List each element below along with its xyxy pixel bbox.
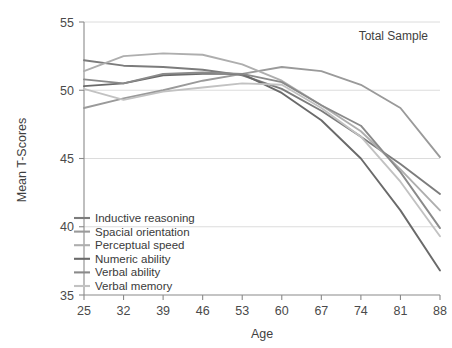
y-tick-marks [79,22,84,295]
series-lines [84,53,440,270]
x-tick-label: 32 [117,304,131,318]
y-tick-label: 40 [60,220,74,234]
y-tick-labels: 3540455055 [60,16,74,303]
total-sample-annotation: Total Sample [359,29,429,43]
x-tick-label: 81 [393,304,407,318]
x-tick-label: 25 [77,304,91,318]
x-tick-labels: 25323946536067748188 [77,304,447,318]
x-tick-label: 67 [314,304,328,318]
x-tick-label: 88 [433,304,447,318]
legend-label-4: Verbal ability [95,266,160,278]
gridlines [84,22,440,227]
y-tick-label: 55 [60,16,74,30]
line-chart: 3540455055 25323946536067748188 Age Mean… [0,0,452,348]
series-line-perceptual-speed [84,53,440,210]
x-tick-marks [84,295,440,300]
chart-container: 3540455055 25323946536067748188 Age Mean… [0,0,452,348]
x-tick-label: 60 [275,304,289,318]
legend-label-3: Numeric ability [95,253,171,265]
y-tick-label: 45 [60,152,74,166]
legend: Inductive reasoningSpacial orientationPe… [74,212,195,292]
legend-label-1: Spacial orientation [95,226,190,238]
x-tick-label: 74 [354,304,368,318]
x-axis-title: Age [251,327,273,341]
x-tick-label: 39 [156,304,170,318]
y-tick-label: 50 [60,84,74,98]
legend-label-5: Verbal memory [95,280,173,292]
legend-label-2: Perceptual speed [95,239,185,251]
legend-label-0: Inductive reasoning [95,212,195,224]
y-tick-label: 35 [60,289,74,303]
y-axis-title: Mean T-Scores [15,118,29,203]
x-tick-label: 53 [235,304,249,318]
x-tick-label: 46 [196,304,210,318]
